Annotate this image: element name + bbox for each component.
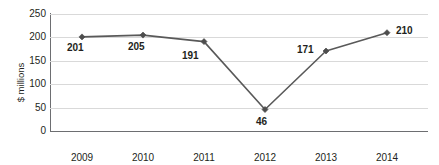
y-tick-250: 250 bbox=[20, 9, 46, 19]
x-axis-line bbox=[50, 131, 428, 132]
data-point-2009 bbox=[79, 34, 85, 40]
data-label-2014: 210 bbox=[396, 26, 413, 36]
y-tick-200: 200 bbox=[20, 32, 46, 42]
y-tick-50: 50 bbox=[20, 103, 46, 113]
data-label-2010: 205 bbox=[128, 42, 145, 52]
x-tick-2012: 2012 bbox=[240, 152, 290, 163]
y-tick-100: 100 bbox=[20, 79, 46, 89]
line-chart: $ millions 250 200 150 100 50 0 201 20 bbox=[0, 0, 439, 165]
y-axis-tick-labels: 250 200 150 100 50 0 bbox=[18, 0, 46, 165]
x-tick-2013: 2013 bbox=[301, 152, 351, 163]
y-tick-0: 0 bbox=[20, 126, 46, 136]
series-line bbox=[50, 14, 428, 131]
data-label-2012: 46 bbox=[256, 117, 267, 127]
data-point-2010 bbox=[140, 32, 146, 38]
x-tick-2011: 2011 bbox=[179, 152, 229, 163]
x-tick-2009: 2009 bbox=[57, 152, 107, 163]
data-label-2013: 171 bbox=[297, 45, 314, 55]
data-label-2011: 191 bbox=[182, 51, 199, 61]
x-tick-2014: 2014 bbox=[362, 152, 412, 163]
y-tick-150: 150 bbox=[20, 56, 46, 66]
x-tick-2010: 2010 bbox=[118, 152, 168, 163]
data-point-2014 bbox=[384, 30, 390, 36]
data-label-2009: 201 bbox=[67, 43, 84, 53]
plot-area: 201 205 191 46 171 210 2009 2010 2011 20… bbox=[50, 14, 428, 131]
